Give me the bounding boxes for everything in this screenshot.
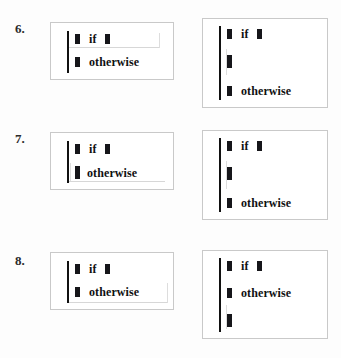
piecewise-brace bbox=[219, 26, 221, 100]
math-token bbox=[257, 261, 262, 271]
problem-row-6: 6. if otherwise bbox=[0, 0, 341, 118]
case-keyword: if bbox=[89, 33, 97, 45]
case-row: otherwise bbox=[227, 197, 291, 209]
problem-7-left-box: if otherwise bbox=[50, 132, 174, 190]
math-token bbox=[227, 55, 232, 68]
scan-artifact-line bbox=[69, 181, 165, 182]
scan-artifact-vline bbox=[167, 283, 168, 303]
problem-number-6: 6. bbox=[15, 21, 25, 37]
case-row: if bbox=[75, 33, 110, 45]
math-token bbox=[75, 287, 80, 297]
math-token bbox=[257, 29, 262, 39]
math-token bbox=[75, 166, 80, 179]
problem-6-left-box: if otherwise bbox=[50, 22, 174, 80]
case-row bbox=[227, 314, 232, 327]
case-keyword: if bbox=[241, 28, 249, 40]
case-row: if bbox=[227, 260, 262, 272]
case-row: otherwise bbox=[75, 286, 139, 298]
case-row: if bbox=[227, 28, 262, 40]
case-row: if bbox=[75, 143, 110, 155]
problem-row-7: 7. if otherwise bbox=[0, 118, 341, 238]
math-token bbox=[227, 167, 232, 180]
piecewise-brace bbox=[67, 31, 69, 73]
case-keyword: otherwise bbox=[241, 85, 291, 97]
case-row: otherwise bbox=[227, 85, 291, 97]
math-token bbox=[75, 57, 80, 67]
case-keyword: if bbox=[89, 263, 97, 275]
problem-number-8: 8. bbox=[15, 253, 25, 269]
scan-artifact-vline bbox=[159, 33, 160, 48]
piecewise-brace bbox=[67, 141, 69, 183]
math-token bbox=[105, 144, 110, 154]
case-row: if bbox=[227, 140, 262, 152]
problem-8-right-box: if otherwise bbox=[202, 250, 328, 339]
case-keyword: otherwise bbox=[89, 286, 139, 298]
case-keyword: otherwise bbox=[89, 56, 139, 68]
case-keyword: if bbox=[89, 143, 97, 155]
math-token bbox=[227, 29, 232, 39]
case-row: if bbox=[75, 263, 110, 275]
case-row bbox=[227, 55, 232, 68]
scan-artifact-vline bbox=[70, 163, 71, 181]
math-token bbox=[75, 264, 80, 274]
case-row: otherwise bbox=[75, 166, 137, 179]
problem-8-left-box: if otherwise bbox=[50, 252, 174, 310]
math-token bbox=[227, 198, 232, 208]
piecewise-brace bbox=[219, 138, 221, 212]
math-token bbox=[75, 34, 80, 44]
math-token bbox=[227, 261, 232, 271]
math-token bbox=[227, 86, 232, 96]
case-row: otherwise bbox=[227, 287, 291, 299]
case-keyword: otherwise bbox=[241, 197, 291, 209]
case-keyword: if bbox=[241, 140, 249, 152]
math-token bbox=[227, 314, 232, 327]
problem-7-right-box: if otherwise bbox=[202, 130, 328, 220]
math-token bbox=[227, 288, 232, 298]
math-token bbox=[105, 264, 110, 274]
math-token bbox=[75, 144, 80, 154]
problem-number-7: 7. bbox=[15, 131, 25, 147]
scanned-page: 6. if otherwise bbox=[0, 0, 341, 358]
problem-6-right-box: if otherwise bbox=[202, 18, 328, 108]
math-token bbox=[105, 34, 110, 44]
case-row bbox=[227, 167, 232, 180]
piecewise-brace bbox=[67, 261, 69, 303]
scan-artifact-line bbox=[69, 302, 167, 303]
math-token bbox=[227, 141, 232, 151]
problem-row-8: 8. if otherwise bbox=[0, 238, 341, 358]
case-keyword: otherwise bbox=[241, 287, 291, 299]
case-keyword: if bbox=[241, 260, 249, 272]
case-row: otherwise bbox=[75, 56, 139, 68]
math-token bbox=[257, 141, 262, 151]
scan-artifact-line bbox=[69, 47, 159, 48]
piecewise-brace bbox=[219, 258, 221, 332]
case-keyword: otherwise bbox=[87, 167, 137, 179]
